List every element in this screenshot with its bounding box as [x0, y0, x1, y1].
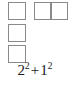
unit-square-2: [8, 24, 26, 42]
term-2-exponent: 2: [48, 61, 53, 71]
term-1-base: 2: [18, 62, 26, 78]
formula-term-1: 22: [18, 62, 30, 78]
formula-label: 22+12: [0, 63, 70, 78]
formula-operator: +: [30, 62, 40, 78]
formula-term-2: 12: [40, 62, 52, 78]
rect-cell-right: [51, 2, 68, 20]
unit-square-1: [8, 2, 26, 20]
term-2-base: 1: [40, 62, 48, 78]
math-figure: 22+12: [0, 0, 70, 85]
rect-cell-left: [34, 2, 51, 20]
unit-square-3: [8, 45, 26, 63]
